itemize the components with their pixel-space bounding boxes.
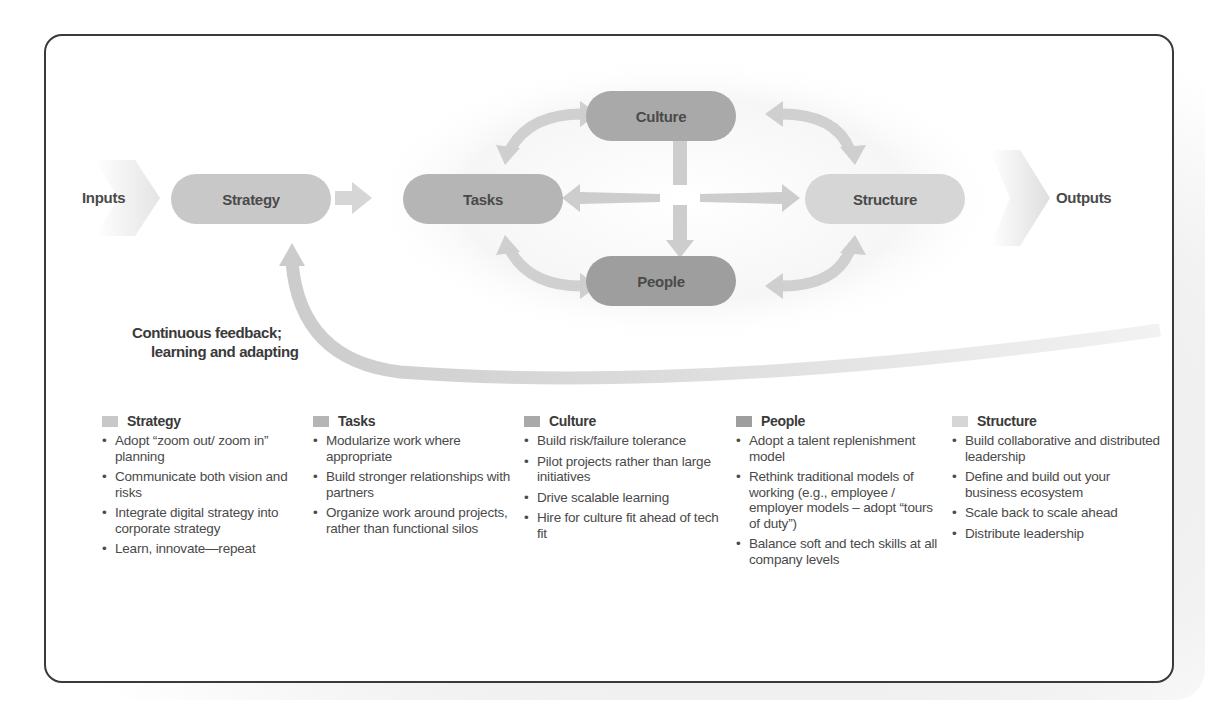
column-structure: Structure Build collaborative and distri… <box>952 412 1162 546</box>
list-item: Learn, innovate—repeat <box>102 541 307 557</box>
list-item: Organize work around projects, rather th… <box>313 505 518 536</box>
feedback-label-line1: Continuous feedback; <box>132 323 298 342</box>
list-item: Build collaborative and distributed lead… <box>952 433 1162 464</box>
column-title: Culture <box>549 413 596 429</box>
column-title: People <box>761 413 805 429</box>
node-culture: Culture <box>586 91 736 141</box>
column-strategy: Strategy Adopt “zoom out/ zoom in” plann… <box>102 412 307 562</box>
column-header: Culture <box>524 412 729 430</box>
swatch-icon <box>736 416 752 427</box>
swatch-icon <box>524 416 540 427</box>
feedback-label-line2: learning and adapting <box>132 342 298 361</box>
column-title: Structure <box>977 413 1037 429</box>
column-tasks: Tasks Modularize work where appropriate … <box>313 412 518 541</box>
node-strategy: Strategy <box>171 174 331 224</box>
list-item: Integrate digital strategy into corporat… <box>102 505 307 536</box>
column-people: People Adopt a talent replenishment mode… <box>736 412 941 572</box>
column-title: Strategy <box>127 413 181 429</box>
swatch-icon <box>102 416 118 427</box>
column-header: Tasks <box>313 412 518 430</box>
list-item: Balance soft and tech skills at all comp… <box>736 536 941 567</box>
column-culture: Culture Build risk/failure tolerance Pil… <box>524 412 729 546</box>
swatch-icon <box>313 416 329 427</box>
column-header: Strategy <box>102 412 307 430</box>
node-structure: Structure <box>805 174 965 224</box>
recommendation-columns: Strategy Adopt “zoom out/ zoom in” plann… <box>102 412 1172 672</box>
node-people: People <box>586 256 736 306</box>
list-item: Communicate both vision and risks <box>102 469 307 500</box>
swatch-icon <box>952 416 968 427</box>
list-item: Build risk/failure tolerance <box>524 433 729 449</box>
column-header: People <box>736 412 941 430</box>
feedback-label: Continuous feedback; learning and adapti… <box>132 323 298 361</box>
list-item: Hire for culture fit ahead of tech fit <box>524 510 729 541</box>
inputs-label: Inputs <box>82 189 125 206</box>
feedback-arrowhead-icon <box>279 243 305 266</box>
column-header: Structure <box>952 412 1162 430</box>
list-item: Modularize work where appropriate <box>313 433 518 464</box>
org-model-diagram: Inputs Outputs Strategy Tasks Culture Pe… <box>0 0 1222 400</box>
list-item: Scale back to scale ahead <box>952 505 1162 521</box>
list-item: Distribute leadership <box>952 526 1162 542</box>
column-title: Tasks <box>338 413 375 429</box>
list-item: Pilot projects rather than large initiat… <box>524 454 729 485</box>
list-item: Adopt “zoom out/ zoom in” planning <box>102 433 307 464</box>
list-item: Rethink traditional models of working (e… <box>736 469 941 531</box>
outputs-label: Outputs <box>1056 189 1111 206</box>
list-item: Define and build out your business ecosy… <box>952 469 1162 500</box>
node-tasks: Tasks <box>403 174 563 224</box>
list-item: Adopt a talent replenishment model <box>736 433 941 464</box>
list-item: Drive scalable learning <box>524 490 729 506</box>
list-item: Build stronger relationships with partne… <box>313 469 518 500</box>
